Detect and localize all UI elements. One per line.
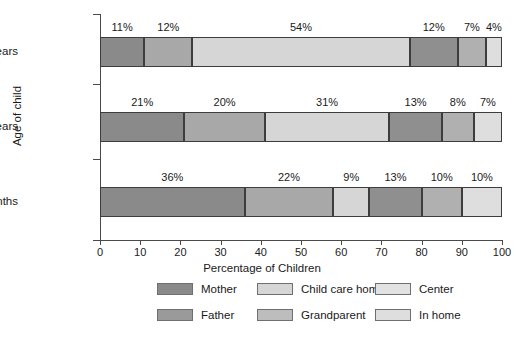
bar-segment <box>100 112 184 142</box>
legend-label: Grandparent <box>301 306 366 324</box>
bar-segment <box>410 37 458 67</box>
bar-segment <box>184 112 264 142</box>
legend-swatch <box>257 283 293 295</box>
x-axis-tick <box>301 240 302 245</box>
x-axis-tick-label: 10 <box>125 246 155 258</box>
y-axis-tick <box>93 240 100 241</box>
bar-segment <box>333 187 369 217</box>
bar-segment-label: 7% <box>473 96 503 108</box>
bar-segment <box>192 37 409 67</box>
bar-segment-label: 31% <box>312 96 342 108</box>
bar-segment-label: 22% <box>274 171 304 183</box>
bar-segment <box>369 187 421 217</box>
x-axis-tick-label: 50 <box>286 246 316 258</box>
y-axis-title: Age of child <box>11 61 23 171</box>
y-axis-category-label: 3 Years <box>0 120 18 132</box>
bar-segment-label: 13% <box>401 96 431 108</box>
x-axis-tick <box>502 240 503 245</box>
x-axis-tick-label: 80 <box>407 246 437 258</box>
bar-segment <box>144 37 192 67</box>
bar-segment <box>265 112 390 142</box>
bar-segment <box>245 187 333 217</box>
legend-swatch <box>375 283 411 295</box>
x-axis-tick <box>180 240 181 245</box>
bar-segment-label: 4% <box>479 21 509 33</box>
legend-swatch <box>157 283 193 295</box>
x-axis-tick <box>381 240 382 245</box>
bar-segment-label: 54% <box>286 21 316 33</box>
x-axis-tick <box>100 240 101 245</box>
bar-segment <box>100 37 144 67</box>
bar-segment-label: 9% <box>336 171 366 183</box>
y-axis-tick <box>93 14 100 15</box>
x-axis-tick-label: 70 <box>366 246 396 258</box>
legend-label: Mother <box>201 280 237 298</box>
x-axis-tick <box>341 240 342 245</box>
bar-segment <box>389 112 441 142</box>
bar-segment-label: 10% <box>467 171 497 183</box>
legend-label: In home <box>419 306 461 324</box>
bar-segment <box>442 112 474 142</box>
legend-swatch <box>375 309 411 321</box>
x-axis-tick-label: 100 <box>487 246 517 258</box>
legend-swatch <box>257 309 293 321</box>
bar-segment <box>474 112 502 142</box>
bar-segment-label: 13% <box>380 171 410 183</box>
legend-label: Center <box>419 280 454 298</box>
x-axis-tick-label: 90 <box>447 246 477 258</box>
x-axis-title: Percentage of Children <box>0 262 524 274</box>
x-axis-tick <box>140 240 141 245</box>
legend-swatch <box>157 309 193 321</box>
bar-segment <box>486 37 502 67</box>
y-axis-category-label: 4½ Years <box>0 45 18 57</box>
x-axis-tick <box>261 240 262 245</box>
y-axis-tick <box>93 159 100 160</box>
bar-segment <box>100 187 245 217</box>
stacked-bar <box>100 187 502 217</box>
bar-segment <box>422 187 462 217</box>
bar-segment-label: 20% <box>210 96 240 108</box>
stacked-bar <box>100 112 502 142</box>
legend-label: Child care home <box>301 280 385 298</box>
y-axis-tick <box>93 84 100 85</box>
x-axis-tick-label: 0 <box>85 246 115 258</box>
x-axis-tick <box>422 240 423 245</box>
bar-segment-label: 11% <box>107 21 137 33</box>
chart-legend: MotherChild care homeCenterFatherGrandpa… <box>157 280 497 332</box>
bar-segment-label: 36% <box>157 171 187 183</box>
bar-segment-label: 12% <box>153 21 183 33</box>
bar-segment-label: 12% <box>419 21 449 33</box>
bar-segment <box>462 187 502 217</box>
bar-segment-label: 10% <box>427 171 457 183</box>
bar-segment <box>458 37 486 67</box>
x-axis-tick <box>462 240 463 245</box>
stacked-bar <box>100 37 502 67</box>
x-axis-tick-label: 40 <box>246 246 276 258</box>
bar-segment-label: 8% <box>443 96 473 108</box>
x-axis-tick-label: 20 <box>165 246 195 258</box>
stacked-bar-chart: Age of child 4½ Years3 Years6 Months 010… <box>0 0 524 341</box>
bar-segment-label: 21% <box>127 96 157 108</box>
y-axis-category-label: 6 Months <box>0 195 18 207</box>
x-axis-tick-label: 30 <box>206 246 236 258</box>
legend-label: Father <box>201 306 234 324</box>
x-axis-tick-label: 60 <box>326 246 356 258</box>
x-axis-tick <box>221 240 222 245</box>
